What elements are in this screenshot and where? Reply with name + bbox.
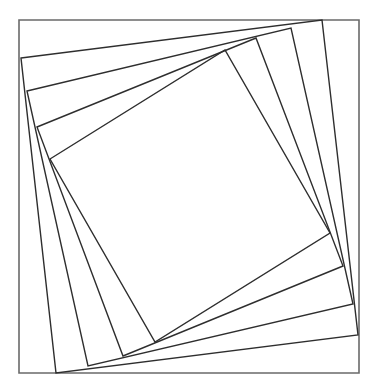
inscribed-square-2 xyxy=(27,28,353,366)
inscribed-square-3 xyxy=(37,38,343,356)
nested-squares-diagram xyxy=(0,0,378,391)
inscribed-square-4 xyxy=(50,50,330,342)
